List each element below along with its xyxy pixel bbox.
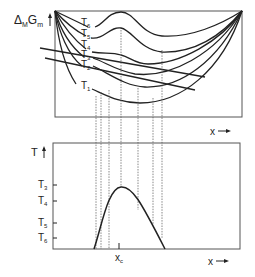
top-panel: ΔMGm	[14, 11, 242, 137]
phase-diagram: ΔMGm	[0, 0, 255, 277]
curve-T2	[93, 11, 242, 87]
tick-T6: T6	[38, 232, 48, 244]
curve-T1	[92, 11, 242, 103]
ylabel-delta: Δ	[14, 13, 22, 27]
tick-T3: T3	[38, 179, 48, 191]
bottom-xlabel: x	[208, 256, 213, 267]
xc-label: xc	[115, 252, 123, 264]
bottom-ylabel: T	[31, 146, 38, 158]
top-xlabel: x	[210, 126, 215, 137]
curve-T3	[93, 11, 242, 74]
gibbs-curves	[40, 11, 242, 103]
up-arrow-icon	[48, 13, 52, 26]
tick-T4: T4	[38, 195, 48, 207]
svg-text:ΔMGm: ΔMGm	[14, 13, 43, 28]
right-arrow-icon	[218, 129, 231, 133]
right-arrow-icon	[216, 259, 229, 263]
tie-lines	[96, 30, 162, 249]
up-arrow-icon	[42, 146, 46, 158]
tick-T5: T5	[38, 217, 48, 229]
label-T1: T1	[81, 80, 91, 92]
curve-T5	[91, 11, 242, 52]
miscibility-dome	[94, 187, 165, 249]
bottom-panel: T T3 T4 T5 T6 xc x	[31, 143, 240, 267]
bottom-frame	[53, 143, 240, 249]
